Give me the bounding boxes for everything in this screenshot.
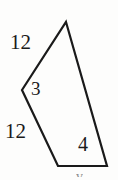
polygon-drawing	[0, 0, 118, 180]
label-left-vertex: 3	[31, 79, 41, 98]
geometry-figure: 12 3 12 4 v	[0, 0, 118, 180]
label-cut-off-bottom: v	[76, 170, 83, 177]
label-top-left-side: 12	[10, 32, 31, 53]
label-bottom-right-interior: 4	[78, 134, 88, 154]
label-bottom-left-side: 12	[5, 121, 26, 142]
